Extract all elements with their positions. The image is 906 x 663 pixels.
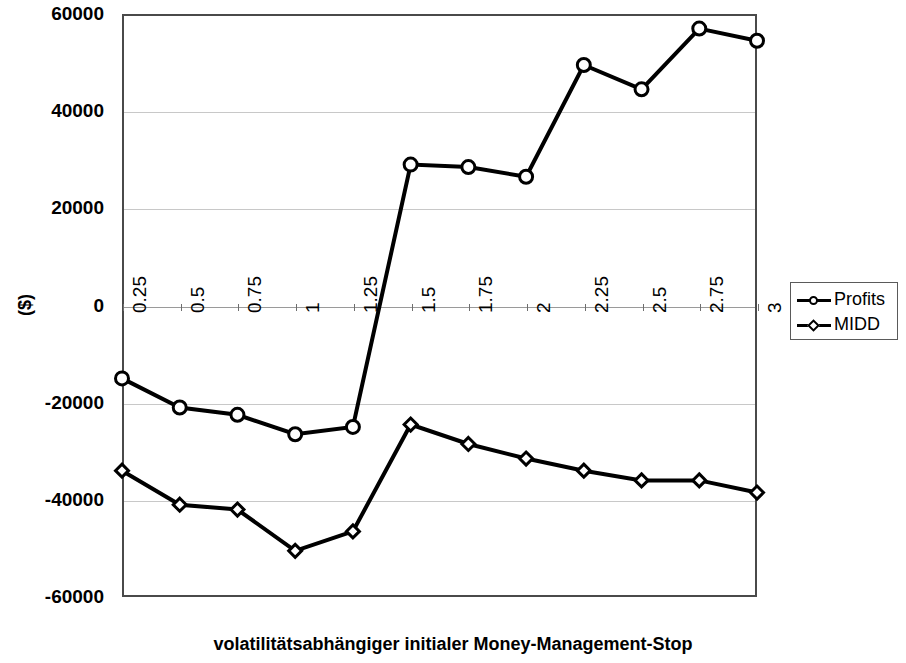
legend-label: MIDD: [831, 314, 880, 335]
y-axis-tick-label: 40000: [51, 100, 104, 122]
y-axis-tick-label: 20000: [51, 197, 104, 219]
y-axis-tick-label: -20000: [45, 392, 104, 414]
gridline: [124, 112, 755, 113]
legend-label: Profits: [831, 289, 885, 310]
x-axis-tick-label: 1: [302, 302, 324, 313]
chart-container: 6000040000200000-20000-40000-60000 ($) 0…: [0, 0, 906, 663]
y-axis-tick-label: 60000: [51, 3, 104, 25]
gridline: [124, 501, 755, 502]
x-axis-tick-label: 3: [764, 302, 786, 313]
legend-marker-circle-icon: [809, 296, 818, 305]
x-axis-tick-label: 2.5: [649, 287, 671, 313]
y-axis-tick-label: -60000: [45, 586, 104, 608]
x-axis-tick: [296, 304, 297, 311]
y-axis-tick-labels: 6000040000200000-20000-40000-60000: [0, 0, 112, 663]
x-axis-tick-label: 1.75: [475, 276, 497, 313]
legend: ProfitsMIDD: [790, 282, 898, 340]
legend-item-profits[interactable]: Profits: [797, 287, 897, 312]
x-axis-tick-label: 1.25: [360, 276, 382, 313]
x-axis-tick: [354, 304, 355, 311]
y-axis-title: ($): [15, 294, 36, 316]
x-axis-tick: [585, 304, 586, 311]
legend-swatch-diamond-icon: [797, 318, 831, 332]
x-axis-tick-label: 2.25: [591, 276, 613, 313]
x-axis-tick-label: 0.5: [187, 287, 209, 313]
x-axis-tick: [758, 304, 759, 311]
gridline: [124, 209, 755, 210]
x-axis-tick: [412, 304, 413, 311]
x-axis-tick: [181, 304, 182, 311]
x-axis-tick-label: 1.5: [418, 287, 440, 313]
legend-swatch-circle-icon: [797, 293, 831, 307]
x-axis-tick-label: 0.25: [129, 276, 151, 313]
legend-marker-diamond-icon: [807, 319, 820, 332]
x-axis-tick: [527, 304, 528, 311]
legend-item-midd[interactable]: MIDD: [797, 312, 897, 337]
x-axis-title: volatilitätsabhängiger initialer Money-M…: [0, 634, 906, 655]
x-axis-tick: [643, 304, 644, 311]
x-axis-tick-label: 2.75: [706, 276, 728, 313]
x-axis-tick: [123, 304, 124, 311]
gridline: [124, 404, 755, 405]
y-axis-tick-label: -40000: [45, 489, 104, 511]
y-axis-tick-label: 0: [93, 295, 104, 317]
x-axis-tick: [469, 304, 470, 311]
x-axis-tick: [238, 304, 239, 311]
x-axis-tick-label: 0.75: [244, 276, 266, 313]
x-axis-tick: [700, 304, 701, 311]
x-axis-tick-label: 2: [533, 302, 555, 313]
